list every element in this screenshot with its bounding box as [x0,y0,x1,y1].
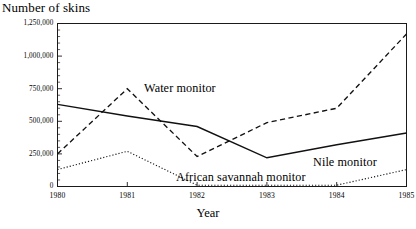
y-tick-label: 500,000 [6,117,54,125]
series-label-nile-monitor: Nile monitor [313,155,377,169]
y-tick-label: 1,250,000 [6,19,54,27]
x-tick-label: 1981 [107,191,147,200]
x-tick-label: 1983 [247,191,287,200]
x-tick-label: 1984 [317,191,357,200]
series-line-water-monitor [58,34,407,157]
x-tick-label: 1980 [38,191,78,200]
y-tick-label: 750,000 [6,85,54,93]
x-axis-title: Year [148,206,268,220]
series-label-african-savannah-monitor: African savannah monitor [176,170,306,184]
x-tick-label: 1982 [177,191,217,200]
y-tick-label: 250,000 [6,150,54,158]
chart-container: Number of skins 0250,000500,000750,0001,… [0,0,416,229]
series-label-water-monitor: Water monitor [144,81,216,95]
x-tick-label: 1985 [387,191,416,200]
y-tick-label: 0 [6,182,54,190]
y-tick-label: 1,000,000 [6,52,54,60]
series-line-nile-monitor [58,104,407,157]
